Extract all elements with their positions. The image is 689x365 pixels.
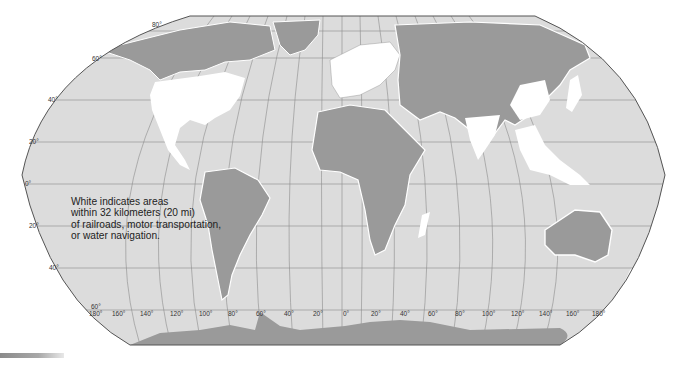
legend-line: or water navigation. <box>71 230 221 241</box>
lon-label: 60° <box>256 310 266 317</box>
lat-label-60n: 60° <box>92 55 102 62</box>
lon-label: 60° <box>428 310 438 317</box>
lon-label: 120° <box>511 310 525 317</box>
decorative-gradient-bar <box>0 353 64 358</box>
lat-label-40s: 40° <box>49 264 59 271</box>
lon-label: 100° <box>482 310 496 317</box>
lat-label-20n: 20° <box>29 138 39 145</box>
lon-label: 20° <box>371 310 381 317</box>
lon-label: 160° <box>566 310 580 317</box>
legend-line: within 32 kilometers (20 mi) <box>71 207 221 218</box>
lat-label-60s: 60° <box>91 303 101 310</box>
legend-line: of railroads, motor transportation, <box>71 219 221 230</box>
map-legend: White indicates areas within 32 kilomete… <box>71 196 221 242</box>
lon-label: 80° <box>455 310 465 317</box>
lat-label-80n: 80° <box>152 21 162 28</box>
lon-label: 140° <box>140 310 154 317</box>
world-map: 80° 60° 40° 20° 0° 20° 40° 60° 180° 160°… <box>0 0 689 365</box>
lon-label: 120° <box>170 310 184 317</box>
legend-line: White indicates areas <box>71 196 221 207</box>
lat-label-40n: 40° <box>48 96 58 103</box>
lon-label: 180° <box>89 310 103 317</box>
lon-label: 160° <box>112 310 126 317</box>
lon-label: 140° <box>539 310 553 317</box>
lon-label: 40° <box>284 310 294 317</box>
lon-label: 100° <box>199 310 213 317</box>
lon-label: 40° <box>400 310 410 317</box>
lat-label-equator: 0° <box>25 180 32 187</box>
lon-label: 180° <box>592 310 606 317</box>
lon-label: 0° <box>343 310 350 317</box>
lon-label: 80° <box>228 310 238 317</box>
lat-label-20s: 20° <box>29 222 39 229</box>
lon-label: 20° <box>313 310 323 317</box>
